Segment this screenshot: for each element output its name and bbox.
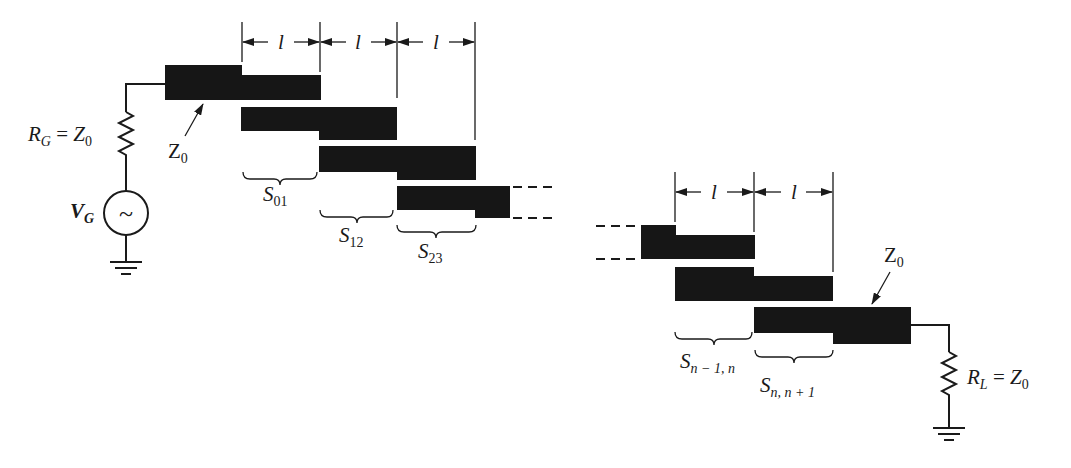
spacing-label-sn-1n: Sn − 1, n (680, 349, 735, 376)
ground-icon (110, 262, 142, 274)
source-circuit: ~ (104, 84, 165, 274)
ac-symbol: ~ (119, 199, 133, 228)
coupled-strip-n-1 (641, 225, 755, 259)
coupled-strip-2 (319, 146, 476, 180)
rl-label: RL = Z0 (966, 365, 1029, 392)
spacing-label-s23: S23 (418, 239, 443, 266)
coupled-lines-left (165, 65, 510, 218)
resistor-rl (942, 352, 956, 428)
length-label: l (433, 30, 439, 54)
length-label: l (711, 180, 717, 204)
output-z0-label: Z0 (884, 243, 904, 270)
z0-pointer-arrow-icon (872, 272, 890, 304)
vg-label: VG (70, 199, 94, 226)
input-z0-label: Z0 (168, 139, 188, 166)
input-strip (165, 65, 321, 100)
length-label: l (791, 180, 797, 204)
length-label: l (355, 30, 361, 54)
z0-pointer-arrow-icon (185, 104, 203, 136)
coupled-lines-right (641, 225, 911, 344)
spacing-label-s01: S01 (263, 182, 288, 209)
spacing-label-snn+1: Sn, n + 1 (760, 373, 815, 400)
length-label: l (278, 30, 284, 54)
coupled-strip-1 (241, 107, 397, 140)
coupled-strip-3 (397, 186, 510, 218)
coupled-strip-n (675, 267, 833, 301)
filter-diagram: l l l ~ RG = Z0 (0, 0, 1071, 468)
spacing-label-s12: S12 (339, 223, 364, 250)
ground-icon (933, 428, 965, 440)
output-strip (754, 307, 911, 344)
spacing-braces-right (675, 332, 833, 363)
resistor-rg (119, 112, 133, 191)
rg-label: RG = Z0 (27, 122, 92, 149)
load-circuit (911, 325, 965, 440)
